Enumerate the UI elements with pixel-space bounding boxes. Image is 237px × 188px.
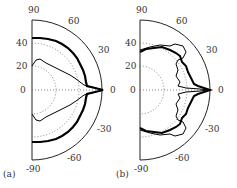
angle-label-60: 60 <box>68 16 80 26</box>
panel-label-b: (b) <box>116 169 129 179</box>
angle-label-m90: -90 <box>134 164 149 174</box>
angle-label-m60: -60 <box>67 153 82 163</box>
angle-label-30: 30 <box>206 45 218 55</box>
outer-arc <box>140 20 210 160</box>
polar-figure: 90 60 30 0 -30 -60 -90 40 20 0 (a) 90 60… <box>0 0 237 188</box>
angle-label-m60: -60 <box>175 153 190 163</box>
angle-label-60: 60 <box>176 16 188 26</box>
panel-b: 90 60 30 0 -30 -60 -90 40 20 0 (b) <box>116 5 224 179</box>
radial-label-20: 20 <box>16 61 28 71</box>
angle-label-m30: -30 <box>97 124 112 134</box>
angle-label-0: 0 <box>218 85 224 95</box>
radial-label-0: 0 <box>130 85 136 95</box>
angle-label-90: 90 <box>28 5 40 15</box>
outer-arc <box>32 20 102 160</box>
panel-a: 90 60 30 0 -30 -60 -90 40 20 0 (a) <box>3 5 116 179</box>
angle-label-30: 30 <box>98 45 110 55</box>
angle-label-0: 0 <box>110 85 116 95</box>
panel-label-a: (a) <box>3 169 15 179</box>
angle-label-m90: -90 <box>26 164 41 174</box>
series-thick <box>140 47 210 133</box>
radial-label-40: 40 <box>16 38 28 48</box>
radial-label-0: 0 <box>20 85 26 95</box>
radial-label-20: 20 <box>125 61 137 71</box>
angle-label-m30: -30 <box>205 124 220 134</box>
radial-label-40: 40 <box>125 38 137 48</box>
angle-label-90: 90 <box>136 5 148 15</box>
